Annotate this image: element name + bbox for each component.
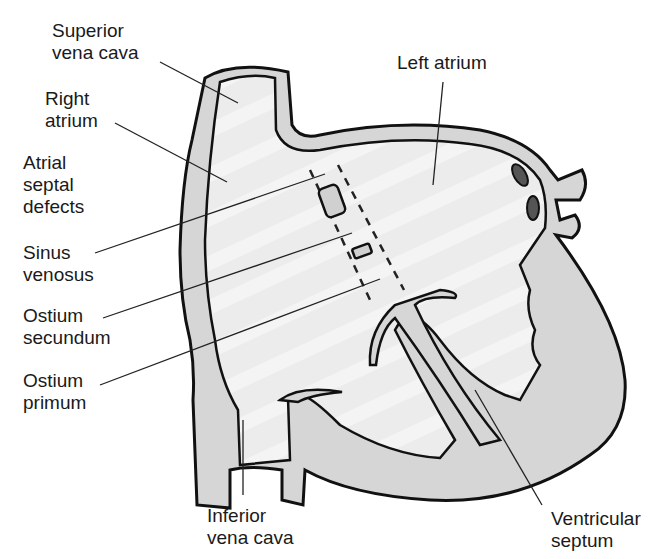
label-inferior-vena-cava: Inferior vena cava (207, 505, 294, 549)
heart-illustration (0, 0, 664, 559)
label-ventricular-septum: Ventricular septum (551, 508, 641, 552)
pulmonary-vein-ostium-2 (527, 196, 539, 220)
label-right-atrium: Right atrium (45, 88, 98, 132)
heart-diagram: Superior vena cava Right atrium Atrial s… (0, 0, 664, 559)
label-atrial-septal-defects: Atrial septal defects (23, 152, 84, 218)
label-sinus-venosus: Sinus venosus (23, 242, 94, 286)
label-ostium-primum: Ostium primum (23, 370, 86, 414)
label-left-atrium: Left atrium (397, 52, 487, 74)
label-ostium-secundum: Ostium secundum (23, 305, 111, 349)
label-superior-vena-cava: Superior vena cava (52, 20, 139, 64)
